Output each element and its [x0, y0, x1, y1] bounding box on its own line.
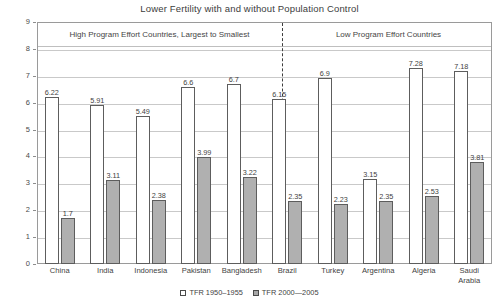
bar-value-label: 7.28 — [409, 59, 423, 68]
bar-tfr-1950-1955: 6.22 — [45, 97, 59, 264]
fertility-bar-chart: Lower Fertility with and without Populat… — [0, 0, 499, 308]
bar-group: 5.492.38 — [136, 22, 166, 264]
bar-value-label: 6.7 — [229, 75, 239, 84]
bar-tfr-2000-2005: 2.38 — [152, 200, 166, 264]
y-tick-mark — [33, 130, 36, 131]
bar-value-label: 3.15 — [363, 170, 377, 179]
y-tick-mark — [33, 183, 36, 184]
y-tick-label: 1 — [0, 232, 30, 241]
bar-value-label: 2.23 — [334, 195, 348, 204]
y-tick-mark — [33, 156, 36, 157]
bar-value-label: 2.53 — [425, 187, 439, 196]
legend-item: TFR 1950–1955 — [180, 288, 242, 297]
bar-group: 3.152.35 — [363, 22, 393, 264]
y-tick-label: 4 — [0, 151, 30, 160]
bar-value-label: 6.22 — [45, 88, 59, 97]
bar-value-label: 5.91 — [90, 96, 104, 105]
bar-group: 6.92.23 — [318, 22, 348, 264]
legend-item: TFR 2000—2005 — [253, 288, 319, 297]
bar-tfr-1950-1955: 3.15 — [363, 179, 377, 264]
y-tick-label: 8 — [0, 44, 30, 53]
y-tick-label: 9 — [0, 17, 30, 26]
bar-value-label: 3.99 — [197, 148, 211, 157]
legend-label: TFR 1950–1955 — [189, 288, 242, 297]
bar-value-label: 2.38 — [152, 191, 166, 200]
y-tick-mark — [33, 264, 36, 265]
bar-group: 5.913.11 — [90, 22, 120, 264]
bars-layer: 6.221.75.913.115.492.386.63.996.73.226.1… — [37, 22, 492, 264]
bar-tfr-2000-2005: 3.99 — [197, 157, 211, 264]
bar-tfr-2000-2005: 2.53 — [425, 196, 439, 264]
bar-value-label: 1.7 — [63, 209, 73, 218]
bar-group: 7.282.53 — [409, 22, 439, 264]
bar-tfr-1950-1955: 5.49 — [136, 116, 150, 264]
y-tick-label: 6 — [0, 98, 30, 107]
x-axis-label: Bangladesh — [219, 266, 265, 276]
legend-label: TFR 2000—2005 — [262, 288, 319, 297]
bar-value-label: 2.35 — [288, 192, 302, 201]
x-axis-label: Argentina — [356, 266, 402, 276]
y-tick-mark — [33, 210, 36, 211]
y-tick-mark — [33, 103, 36, 104]
bar-value-label: 6.9 — [320, 69, 330, 78]
bar-tfr-1950-1955: 6.6 — [181, 87, 195, 264]
x-axis-label: Turkey — [310, 266, 356, 276]
bar-group: 6.221.7 — [45, 22, 75, 264]
chart-title: Lower Fertility with and without Populat… — [0, 3, 499, 14]
y-tick-label: 7 — [0, 71, 30, 80]
legend-swatch-old-icon — [180, 290, 186, 296]
bar-value-label: 5.49 — [136, 107, 150, 116]
y-tick-label: 3 — [0, 178, 30, 187]
bar-tfr-1950-1955: 6.15 — [272, 99, 286, 264]
y-tick-mark — [33, 22, 36, 23]
bar-tfr-2000-2005: 3.22 — [243, 177, 257, 264]
y-tick-label: 2 — [0, 205, 30, 214]
bar-value-label: 3.81 — [470, 153, 484, 162]
bar-value-label: 2.35 — [379, 192, 393, 201]
x-axis-label: China — [37, 266, 83, 276]
bar-tfr-2000-2005: 2.23 — [334, 204, 348, 264]
bar-tfr-2000-2005: 3.11 — [106, 180, 120, 264]
bar-tfr-2000-2005: 2.35 — [379, 201, 393, 264]
bar-group: 6.152.35 — [272, 22, 302, 264]
x-axis-label: Algeria — [401, 266, 447, 276]
y-tick-mark — [33, 237, 36, 238]
bar-value-label: 7.18 — [454, 62, 468, 71]
bar-group: 7.183.81 — [454, 22, 484, 264]
bar-tfr-1950-1955: 7.28 — [409, 68, 423, 264]
y-tick-mark — [33, 49, 36, 50]
y-tick-label: 0 — [0, 259, 30, 268]
bar-group: 6.63.99 — [181, 22, 211, 264]
x-axis-label: Brazil — [265, 266, 311, 276]
bar-tfr-2000-2005: 1.7 — [61, 218, 75, 264]
bar-value-label: 6.15 — [272, 90, 286, 99]
chart-legend: TFR 1950–1955TFR 2000—2005 — [0, 288, 499, 297]
x-axis-label: Pakistan — [174, 266, 220, 276]
bar-tfr-1950-1955: 7.18 — [454, 71, 468, 264]
bar-value-label: 6.6 — [183, 78, 193, 87]
x-axis-label: Indonesia — [128, 266, 174, 276]
bar-value-label: 3.11 — [106, 171, 120, 180]
x-axis-label: SaudiArabia — [447, 266, 493, 285]
legend-swatch-new-icon — [253, 290, 259, 296]
bar-tfr-2000-2005: 3.81 — [470, 162, 484, 264]
y-tick-mark — [33, 76, 36, 77]
bar-tfr-1950-1955: 5.91 — [90, 105, 104, 264]
bar-value-label: 3.22 — [243, 168, 257, 177]
bar-tfr-2000-2005: 2.35 — [288, 201, 302, 264]
bar-group: 6.73.22 — [227, 22, 257, 264]
y-tick-label: 5 — [0, 125, 30, 134]
bar-tfr-1950-1955: 6.7 — [227, 84, 241, 264]
x-axis-label: India — [83, 266, 129, 276]
bar-tfr-1950-1955: 6.9 — [318, 78, 332, 264]
